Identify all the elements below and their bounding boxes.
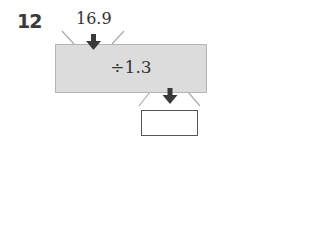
answer-box[interactable] xyxy=(141,110,198,136)
